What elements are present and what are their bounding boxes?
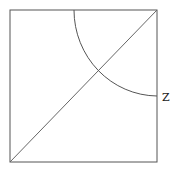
diagram-canvas: Z bbox=[0, 0, 178, 170]
diagonal-line bbox=[10, 10, 157, 162]
label-z: Z bbox=[162, 91, 170, 104]
